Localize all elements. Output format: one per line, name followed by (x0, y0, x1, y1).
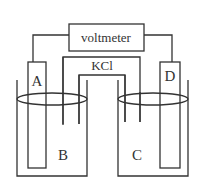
galvanic-cell-diagram: voltmeter KCl A D B C (0, 0, 198, 188)
electrode-a-label: A (32, 73, 43, 89)
wire-right (144, 35, 172, 62)
voltmeter-label: voltmeter (81, 30, 131, 45)
solution-c-label: C (132, 147, 142, 163)
electrode-d-label: D (165, 68, 176, 84)
salt-bridge-label: KCl (91, 58, 113, 73)
beaker-right-rim (118, 93, 188, 105)
solution-b-label: B (58, 147, 68, 163)
